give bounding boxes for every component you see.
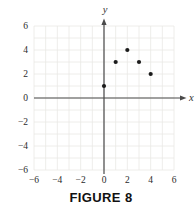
axes	[34, 24, 181, 174]
svg-text:−2: −2	[76, 175, 86, 185]
y-tick-labels: −6−4−20246	[18, 21, 28, 175]
x-tick-labels: −6−4−20246	[29, 175, 177, 185]
svg-text:−2: −2	[18, 117, 28, 127]
svg-text:−6: −6	[18, 165, 28, 175]
svg-text:4: 4	[23, 45, 28, 55]
svg-text:−4: −4	[18, 141, 28, 151]
figure-caption: FIGURE 8	[0, 190, 195, 205]
svg-text:0: 0	[23, 93, 28, 103]
svg-text:−6: −6	[29, 175, 39, 185]
scatter-plot-svg: −6−4−20246−6−4−20246xy	[0, 0, 195, 190]
svg-text:2: 2	[23, 69, 28, 79]
svg-text:−4: −4	[52, 175, 62, 185]
figure-8: −6−4−20246−6−4−20246xy FIGURE 8	[0, 0, 195, 215]
svg-text:0: 0	[102, 175, 107, 185]
svg-text:4: 4	[148, 175, 153, 185]
svg-text:2: 2	[125, 175, 130, 185]
svg-text:6: 6	[172, 175, 177, 185]
y-axis-label: y	[102, 4, 108, 15]
svg-text:6: 6	[23, 21, 28, 31]
x-axis-label: x	[188, 92, 194, 103]
